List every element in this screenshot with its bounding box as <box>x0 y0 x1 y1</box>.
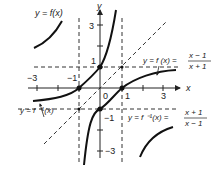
label-f-denominator: x + 1 <box>188 62 207 71</box>
curve-finv-right-branch <box>140 127 173 157</box>
x-axis-label: x <box>185 83 191 93</box>
curve-finv-left-branch <box>33 10 116 101</box>
label-f-equation: y = f (x) = <box>142 56 177 65</box>
pointer-f <box>157 66 159 75</box>
y-axis-label: y <box>96 1 102 11</box>
label-f-numerator: x − 1 <box>188 51 207 60</box>
asymptotes <box>18 18 178 165</box>
label-finv-denominator: x − 1 <box>184 119 203 128</box>
label-finv-equation: y = f ⁻¹(x) = <box>127 113 169 122</box>
function-graph: x y 0 −3 −1 1 3 3 1 −1 −3 y = f(x) y = f… <box>0 0 221 169</box>
y-tick-3: 3 <box>89 21 94 31</box>
y-tick-minus-3: −3 <box>105 146 115 156</box>
x-tick-1: 1 <box>125 91 130 101</box>
y-tick-1: 1 <box>91 56 96 66</box>
curve-f-left-branch <box>34 21 62 48</box>
origin-label: 0 <box>103 91 108 101</box>
x-tick-minus-3: −3 <box>27 73 37 83</box>
mirror-line-y-equals-x <box>44 22 166 144</box>
label-finv-numerator: x + 1 <box>184 108 203 117</box>
y-tick-minus-1: −1 <box>104 113 114 123</box>
label-f-top: y = f(x) <box>34 8 63 18</box>
x-tick-3: 3 <box>161 91 166 101</box>
x-tick-minus-1: −1 <box>67 73 77 83</box>
label-finv-left: y = f ⁻¹(x) <box>19 106 54 115</box>
